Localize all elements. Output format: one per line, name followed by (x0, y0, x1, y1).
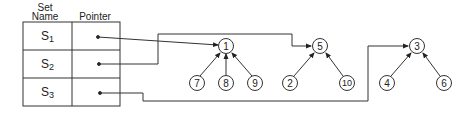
set-subscript: 3 (49, 90, 54, 100)
node-10-label: 10 (342, 78, 352, 88)
set-letter: S (41, 57, 49, 71)
node-2-label: 2 (287, 78, 293, 89)
node-5-label: 5 (317, 41, 323, 52)
node-8-label: 8 (223, 78, 229, 89)
node-7-label: 7 (194, 78, 200, 89)
edge-6-to-3 (423, 53, 440, 76)
set-subscript: 1 (49, 34, 54, 44)
edge-10-to-5 (326, 53, 343, 76)
set-letter: S (41, 29, 49, 43)
set-subscript: 2 (49, 62, 54, 72)
set-name-s1: S1 (23, 22, 72, 50)
node-4-label: 4 (384, 78, 390, 89)
node-6-label: 6 (441, 78, 447, 89)
set-name-s3: S3 (23, 78, 72, 106)
edge-7-to-1 (200, 53, 220, 76)
node-9-label: 9 (252, 78, 258, 89)
set-letter: S (41, 85, 49, 99)
node-1-label: 1 (223, 41, 229, 52)
set-name-s2: S2 (23, 50, 72, 78)
node-3-label: 3 (414, 41, 420, 52)
edge-2-to-5 (294, 53, 314, 76)
pointer-line-s2 (99, 34, 311, 64)
edge-4-to-3 (391, 53, 411, 76)
pointer-line-s3 (100, 46, 408, 101)
edge-9-to-1 (232, 53, 252, 76)
